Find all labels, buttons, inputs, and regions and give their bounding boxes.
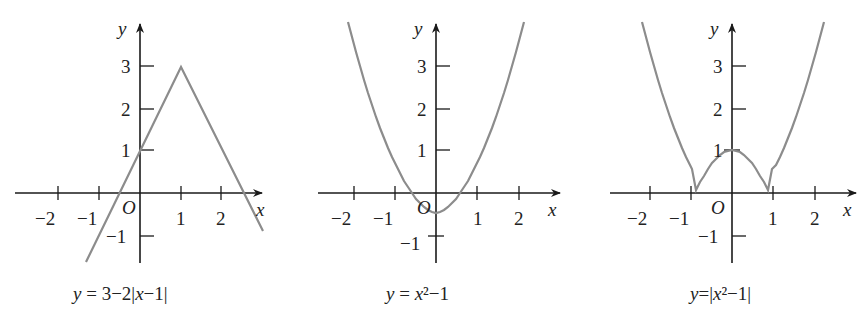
caption-graph-2: y = x²−1 xyxy=(386,283,449,305)
x-tick-label: 2 xyxy=(216,208,226,229)
curve-abs-parabola xyxy=(642,22,824,190)
x-tick-label: −1 xyxy=(77,208,97,229)
x-tick-label: 2 xyxy=(514,208,524,229)
x-tick-label: 1 xyxy=(176,208,186,229)
caption-graph-1: y = 3−2|x−1| xyxy=(73,283,168,305)
y-tick-label: 2 xyxy=(713,99,723,120)
y-ticks xyxy=(140,66,154,236)
x-tick-label: 1 xyxy=(473,208,483,229)
y-tick-label: −1 xyxy=(400,233,420,254)
graph-1: y x O −2 −1 1 2 3 2 1 −1 xyxy=(15,18,265,263)
x-tick-label: −2 xyxy=(35,208,55,229)
caption-eq: = xyxy=(394,283,414,304)
y-tick-label: 3 xyxy=(417,56,427,77)
x-axis-label: x xyxy=(842,199,852,220)
caption-rest: −1| xyxy=(144,283,168,304)
y-tick-label: 1 xyxy=(713,140,723,161)
y-tick-label: 3 xyxy=(713,56,723,77)
x-tick-label: 1 xyxy=(768,208,778,229)
x-tick-label: −1 xyxy=(669,208,689,229)
y-tick-label: 1 xyxy=(121,140,131,161)
caption-rest: ²−1 xyxy=(423,283,449,304)
caption-x: x xyxy=(415,283,423,304)
y-tick-label: 1 xyxy=(417,140,427,161)
caption-eq: =| xyxy=(698,283,713,304)
y-tick-label: 2 xyxy=(121,99,131,120)
origin-label: O xyxy=(417,197,431,218)
caption-x: x xyxy=(135,283,143,304)
x-axis-label: x xyxy=(547,199,557,220)
x-tick-label: −1 xyxy=(373,208,393,229)
y-tick-label: 2 xyxy=(417,99,427,120)
x-tick-label: −2 xyxy=(627,208,647,229)
caption-rest: ²−1| xyxy=(721,283,751,304)
origin-label: O xyxy=(711,197,725,218)
graph-3: y x O −2 −1 1 2 3 2 1 −1 xyxy=(610,18,856,263)
x-tick-label: 2 xyxy=(810,208,820,229)
y-axis-label: y xyxy=(708,18,719,39)
y-axis-label: y xyxy=(116,18,127,39)
graph-2: y x O −2 −1 1 2 3 2 1 −1 xyxy=(318,18,560,263)
caption-eq: = 3−2| xyxy=(81,283,135,304)
x-axis-label: x xyxy=(255,199,265,220)
caption-graph-3: y=|x²−1| xyxy=(690,283,751,305)
x-tick-label: −2 xyxy=(331,208,351,229)
y-tick-label: −1 xyxy=(698,226,718,247)
figure-canvas: y x O −2 −1 1 2 3 2 1 −1 xyxy=(0,0,862,317)
origin-label: O xyxy=(122,197,136,218)
y-tick-label: −1 xyxy=(106,226,126,247)
y-axis-label: y xyxy=(412,18,423,39)
y-tick-label: 3 xyxy=(121,56,131,77)
